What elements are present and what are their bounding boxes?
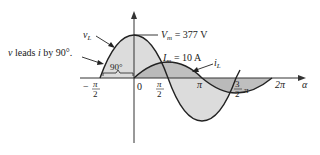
svg-text:2: 2	[93, 89, 98, 99]
iL-leader-line	[196, 64, 213, 70]
Im-label: Im = 10 A	[162, 52, 202, 65]
svg-text:2: 2	[157, 89, 162, 99]
tick-half-pi: π 2	[156, 79, 164, 99]
angle-label: 90°	[110, 62, 123, 72]
svg-text:π: π	[93, 79, 98, 89]
tick-two-pi: 2π	[275, 79, 286, 90]
svg-text:−: −	[83, 81, 89, 92]
iL-label: iL	[214, 57, 221, 70]
vL-leader-arrow-icon	[108, 42, 115, 48]
lead-leader-line	[82, 57, 100, 63]
svg-text:π: π	[157, 79, 162, 89]
vL-label: vL	[83, 29, 91, 42]
svg-text:2: 2	[235, 89, 240, 99]
lead-leader-arrow-icon	[97, 60, 104, 65]
svg-text:3: 3	[235, 79, 240, 89]
tick-neg-half-pi: − π 2	[83, 79, 100, 99]
iL-leader-arrow-icon	[192, 67, 199, 72]
alpha-axis-label: α	[302, 79, 308, 90]
lead-text: v leads i by 90°.	[8, 47, 72, 58]
voltage-current-diagram: vL v leads i by 90°. 90° Vm = 377 V Im =…	[0, 0, 320, 155]
Vm-label: Vm = 377 V	[161, 29, 208, 42]
tick-zero: 0	[137, 81, 142, 92]
vertical-axis-arrow-icon	[131, 11, 137, 19]
svg-text:π: π	[244, 85, 249, 95]
